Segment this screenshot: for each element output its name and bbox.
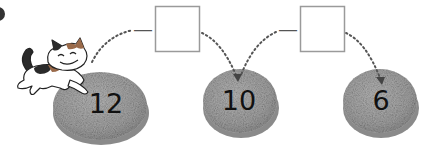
operation-2: — [278, 7, 345, 52]
number-path-diagram: 12 10 6 — — [0, 0, 430, 147]
stone-2-value: 10 [222, 85, 256, 116]
problem-bullet-icon [0, 7, 5, 21]
operation-1: — [133, 7, 200, 52]
minus-sign-2: — [278, 17, 298, 41]
jump-arc-2a [241, 32, 276, 75]
cat-illustration [18, 38, 88, 95]
jump-arc-1b [202, 33, 236, 75]
answer-box-1[interactable] [156, 7, 200, 52]
minus-sign-1: — [133, 17, 153, 41]
stone-2: 10 [203, 69, 279, 138]
stone-1-value: 12 [89, 88, 123, 119]
stone-3-value: 6 [372, 85, 389, 116]
answer-box-2[interactable] [301, 7, 345, 52]
jump-arc-1a [92, 30, 133, 62]
